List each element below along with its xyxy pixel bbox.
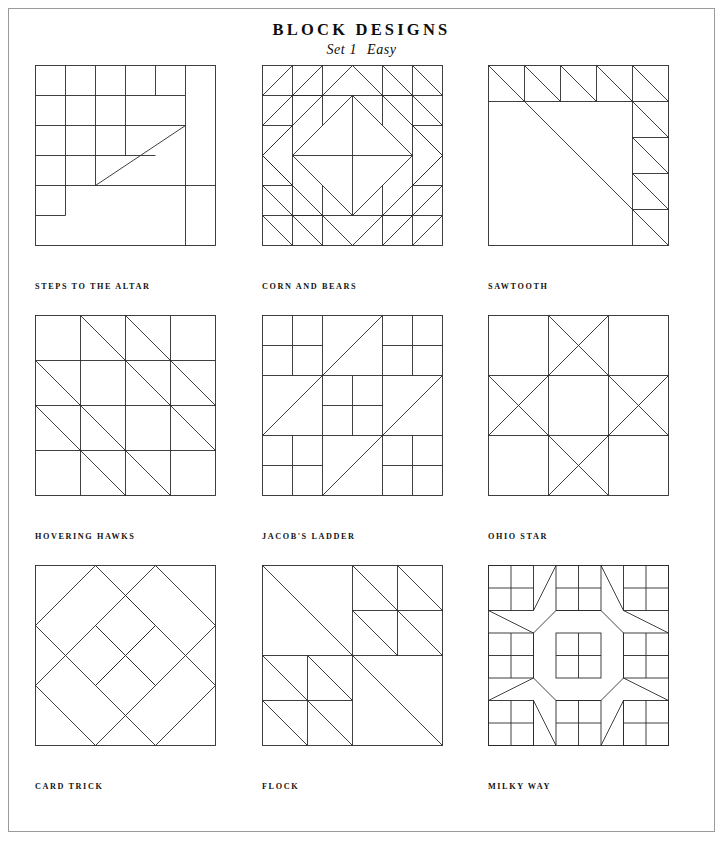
block-label-flock: FLOCK bbox=[262, 782, 472, 791]
block-label-jacobs-ladder: JACOB'S LADDER bbox=[262, 532, 472, 541]
block-label-milky-way: MILKY WAY bbox=[488, 782, 698, 791]
title-block: BLOCK DESIGNS Set 1Easy bbox=[9, 9, 714, 58]
block-grid: STEPS TO THE ALTAR bbox=[9, 65, 714, 825]
block-label-sawtooth: SAWTOOTH bbox=[488, 282, 698, 291]
block-cell-flock: FLOCK bbox=[262, 565, 472, 791]
block-cell-sawtooth: SAWTOOTH bbox=[488, 65, 698, 291]
block-diagram-hovering-hawks bbox=[35, 315, 216, 526]
block-label-corn-and-bears: CORN AND BEARS bbox=[262, 282, 472, 291]
block-diagram-card-trick bbox=[35, 565, 216, 776]
subtitle-set: Set 1 bbox=[326, 42, 357, 57]
page-sheet: BLOCK DESIGNS Set 1Easy bbox=[8, 8, 715, 832]
block-label-ohio-star: OHIO STAR bbox=[488, 532, 698, 541]
block-diagram-flock bbox=[262, 565, 443, 776]
block-diagram-jacobs-ladder bbox=[262, 315, 443, 526]
block-diagram-corn-and-bears bbox=[262, 65, 443, 276]
block-cell-milky-way: MILKY WAY bbox=[488, 565, 698, 791]
block-diagram-milky-way bbox=[488, 565, 669, 776]
block-diagram-ohio-star bbox=[488, 315, 669, 526]
page-title: BLOCK DESIGNS bbox=[9, 21, 714, 40]
block-cell-hovering-hawks: HOVERING HAWKS bbox=[35, 315, 245, 541]
block-cell-ohio-star: OHIO STAR bbox=[488, 315, 698, 541]
block-cell-steps-to-the-altar: STEPS TO THE ALTAR bbox=[35, 65, 245, 291]
block-cell-jacobs-ladder: JACOB'S LADDER bbox=[262, 315, 472, 541]
subtitle-level: Easy bbox=[367, 42, 397, 57]
page-subtitle: Set 1Easy bbox=[9, 42, 714, 58]
block-label-steps-to-the-altar: STEPS TO THE ALTAR bbox=[35, 282, 245, 291]
block-cell-corn-and-bears: CORN AND BEARS bbox=[262, 65, 472, 291]
block-label-card-trick: CARD TRICK bbox=[35, 782, 245, 791]
block-diagram-steps-to-the-altar bbox=[35, 65, 216, 276]
block-diagram-sawtooth bbox=[488, 65, 669, 276]
block-label-hovering-hawks: HOVERING HAWKS bbox=[35, 532, 245, 541]
block-cell-card-trick: CARD TRICK bbox=[35, 565, 245, 791]
